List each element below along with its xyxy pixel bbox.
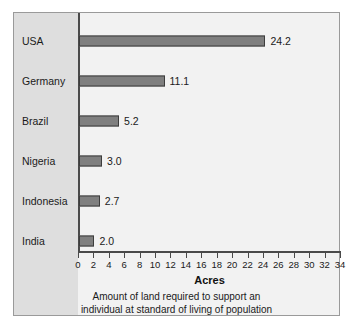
bar-value-label: 2.7 [105,195,120,207]
bar [79,36,265,47]
category-label: USA [22,35,44,47]
bar [79,76,165,87]
x-tick-mark [201,253,202,258]
bar-value-label: 5.2 [124,115,139,127]
x-tick-mark [124,253,125,258]
x-tick-label: 22 [242,259,253,270]
x-tick-label: 32 [319,259,330,270]
bar-row: India2.0 [14,221,339,261]
x-tick-mark [155,253,156,258]
bar [79,196,100,207]
x-tick-mark [78,253,79,258]
bar-value-label: 2.0 [99,235,114,247]
bar [79,236,94,247]
category-label: India [22,235,45,247]
x-tick-label: 12 [165,259,176,270]
x-tick-mark [232,253,233,258]
x-tick-label: 10 [150,259,161,270]
x-tick-mark [186,253,187,258]
x-tick-mark [217,253,218,258]
category-label: Indonesia [22,195,68,207]
caption-line-1: Amount of land required to support an [14,291,339,304]
x-tick-mark [278,253,279,258]
chart-caption: Amount of land required to support an in… [14,291,339,316]
x-tick-label: 4 [106,259,111,270]
x-tick-label: 6 [122,259,127,270]
x-tick-mark [263,253,264,258]
x-tick-mark [309,253,310,258]
x-tick-label: 26 [273,259,284,270]
x-tick-mark [109,253,110,258]
x-tick-label: 24 [258,259,269,270]
bar [79,156,102,167]
x-tick-label: 2 [91,259,96,270]
bar-value-label: 3.0 [107,155,122,167]
bar-row: Nigeria3.0 [14,141,339,181]
bar-value-label: 24.2 [270,35,290,47]
x-tick-label: 28 [288,259,299,270]
category-label: Nigeria [22,155,55,167]
x-axis-title: Acres [78,274,341,286]
caption-line-2: individual at standard of living of popu… [14,304,339,317]
category-label: Germany [22,75,65,87]
bar-value-label: 11.1 [170,75,190,87]
x-tick-mark [93,253,94,258]
x-tick-mark [294,253,295,258]
x-tick-label: 30 [304,259,315,270]
x-tick-mark [248,253,249,258]
x-tick-label: 18 [211,259,222,270]
x-tick-mark [170,253,171,258]
x-tick-mark [325,253,326,258]
x-tick-label: 34 [335,259,346,270]
bar-row: Brazil5.2 [14,101,339,141]
x-tick-label: 8 [137,259,142,270]
x-tick-label: 14 [181,259,192,270]
bar-row: Indonesia2.7 [14,181,339,221]
bar-row: USA24.2 [14,21,339,61]
x-tick-mark [340,253,341,258]
bar [79,116,119,127]
bar-row: Germany11.1 [14,61,339,101]
x-tick-label: 0 [75,259,80,270]
x-tick-label: 20 [227,259,238,270]
x-tick-label: 16 [196,259,207,270]
x-tick-mark [140,253,141,258]
chart-figure: USA24.2Germany11.1Brazil5.2Nigeria3.0Ind… [13,12,340,316]
category-label: Brazil [22,115,48,127]
